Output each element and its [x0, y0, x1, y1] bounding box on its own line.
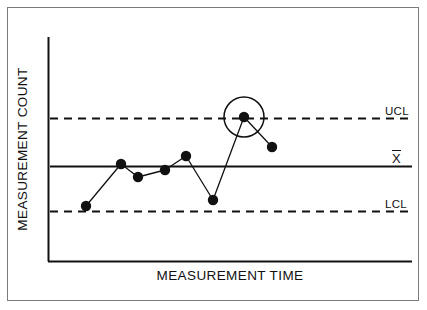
data-point-marker [116, 159, 126, 169]
data-point-marker-out-of-control [239, 112, 249, 122]
center-line-label-text: X [392, 150, 401, 165]
ucl-label: UCL [385, 105, 409, 117]
data-point-marker [133, 172, 143, 182]
data-point-marker [208, 195, 218, 205]
data-point-marker [160, 165, 170, 175]
data-point-marker [181, 151, 191, 161]
control-chart-svg [0, 0, 427, 310]
control-chart-figure: UCL X LCL MEASUREMENT TIME MEASUREMENT C… [0, 0, 427, 310]
lcl-label: LCL [385, 198, 407, 210]
x-axis-title: MEASUREMENT TIME [48, 268, 412, 283]
data-point-marker [267, 142, 277, 152]
plot-area: UCL X LCL MEASUREMENT TIME MEASUREMENT C… [0, 0, 427, 310]
y-axis-title: MEASUREMENT COUNT [15, 67, 30, 230]
data-point-marker [81, 201, 91, 211]
data-series-line [86, 117, 272, 206]
y-axis-title-container: MEASUREMENT COUNT [0, 37, 44, 261]
center-line-label: X [392, 150, 401, 166]
